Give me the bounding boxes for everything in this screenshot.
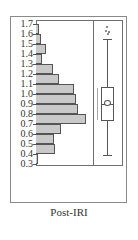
histogram-boxplot-divider bbox=[93, 20, 94, 166]
histogram-bar bbox=[36, 94, 76, 104]
histogram-bar bbox=[36, 84, 74, 94]
histogram-bar bbox=[36, 64, 53, 74]
histogram-bar bbox=[36, 34, 41, 44]
histogram-bar bbox=[36, 54, 42, 64]
lower-whisker-cap bbox=[103, 155, 112, 156]
mean-diamond-icon bbox=[104, 100, 111, 106]
histogram-bar bbox=[36, 24, 39, 34]
outlier-point bbox=[106, 26, 108, 28]
shortest-half-bracket bbox=[97, 88, 98, 120]
chart-caption: Post-IRI bbox=[0, 206, 138, 218]
upper-whisker-cap bbox=[103, 39, 112, 40]
y-tick-label: 0.3 bbox=[9, 159, 33, 169]
histogram-bar bbox=[36, 154, 38, 164]
histogram-bar bbox=[36, 44, 46, 54]
histogram-bar bbox=[36, 74, 59, 84]
histogram-bar bbox=[36, 114, 86, 124]
outlier-point bbox=[105, 30, 107, 32]
histogram-bar bbox=[36, 104, 78, 114]
outlier-point bbox=[107, 33, 109, 35]
lower-whisker bbox=[107, 121, 108, 155]
histogram-bar bbox=[36, 124, 61, 134]
histogram-bar bbox=[36, 134, 54, 144]
upper-whisker bbox=[107, 39, 108, 87]
histogram-bar bbox=[36, 144, 55, 154]
y-tick bbox=[33, 164, 37, 165]
